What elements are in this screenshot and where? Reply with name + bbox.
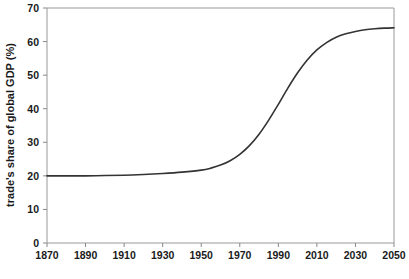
y-tick-label: 30 <box>27 136 39 148</box>
chart-container: 1870189019101930195019701990201020302050… <box>0 0 409 279</box>
x-tick-label: 2030 <box>344 249 368 261</box>
y-tick-label: 10 <box>27 203 39 215</box>
y-tick-label: 40 <box>27 103 39 115</box>
x-tick-label: 1990 <box>267 249 291 261</box>
y-tick-label: 20 <box>27 170 39 182</box>
y-tick-label: 50 <box>27 69 39 81</box>
x-tick-label: 1930 <box>151 249 175 261</box>
y-axis-label: trade's share of global GDP (%) <box>4 43 16 207</box>
y-tick-label: 70 <box>27 2 39 14</box>
x-tick-label: 1970 <box>228 249 252 261</box>
chart-background <box>0 0 409 279</box>
x-tick-label: 1890 <box>74 249 98 261</box>
line-chart: 1870189019101930195019701990201020302050… <box>0 0 409 279</box>
x-tick-label: 2050 <box>382 249 406 261</box>
x-tick-label: 1950 <box>190 249 214 261</box>
x-tick-label: 1910 <box>112 249 136 261</box>
y-tick-label: 60 <box>27 36 39 48</box>
x-tick-label: 2010 <box>305 249 329 261</box>
x-tick-label: 1870 <box>35 249 59 261</box>
y-tick-label: 0 <box>33 237 39 249</box>
